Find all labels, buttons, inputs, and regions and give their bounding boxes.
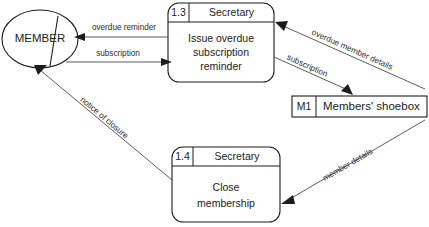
flow-subscription-store-arrowhead: [341, 84, 353, 95]
flow-notice-of-closure-arrowhead: [34, 65, 47, 75]
flow-member-details[interactable]: member details: [281, 120, 425, 204]
flow-subscription-member-arrowhead: [161, 58, 172, 66]
flow-notice-of-closure[interactable]: notice of closure: [34, 65, 172, 180]
data-store-m1-number: M1: [297, 100, 312, 112]
process-1-4-role: Secretary: [215, 150, 261, 162]
process-1-3-role: Secretary: [209, 6, 255, 18]
flow-member-details-arrowhead: [281, 195, 295, 204]
process-1-3-body-line-2: subscription: [193, 46, 249, 58]
flow-subscription-store[interactable]: subscription: [274, 53, 353, 95]
member-label: MEMBER: [15, 32, 65, 44]
flow-subscription-member[interactable]: subscription: [66, 49, 172, 66]
data-store-m1-label: Members' shoebox: [323, 100, 420, 112]
flow-overdue-reminder[interactable]: overdue reminder: [74, 23, 168, 41]
external-entity-member[interactable]: MEMBER: [2, 10, 78, 68]
process-1-4-body-line-1: Close: [213, 181, 240, 193]
process-1-3-body-line-1: Issue overdue: [188, 32, 254, 44]
dfd-canvas: MEMBER 1.3 Secretary Issue overdue subsc…: [0, 0, 429, 227]
flow-overdue-reminder-label: overdue reminder: [92, 23, 156, 32]
process-1-3-number: 1.3: [171, 6, 186, 18]
flow-overdue-reminder-arrowhead: [74, 33, 85, 41]
flow-notice-of-closure-label: notice of closure: [78, 95, 130, 141]
flow-overdue-member-details-line: [281, 25, 425, 89]
flow-member-details-label: member details: [321, 147, 374, 183]
process-1-3-body-line-3: reminder: [200, 60, 242, 72]
flow-overdue-member-details-arrowhead: [275, 21, 288, 31]
flow-subscription-store-label: subscription: [285, 53, 329, 79]
data-store-m1[interactable]: M1 Members' shoebox: [292, 96, 427, 117]
flow-subscription-member-label: subscription: [96, 49, 140, 58]
process-1-4-body-line-2: membership: [197, 197, 255, 209]
process-1-3[interactable]: 1.3 Secretary Issue overdue subscription…: [168, 3, 274, 82]
flow-overdue-member-details[interactable]: overdue member details: [275, 21, 425, 89]
process-1-4-number: 1.4: [175, 150, 190, 162]
process-1-4[interactable]: 1.4 Secretary Close membership: [172, 147, 280, 222]
flow-overdue-member-details-label: overdue member details: [310, 28, 394, 72]
